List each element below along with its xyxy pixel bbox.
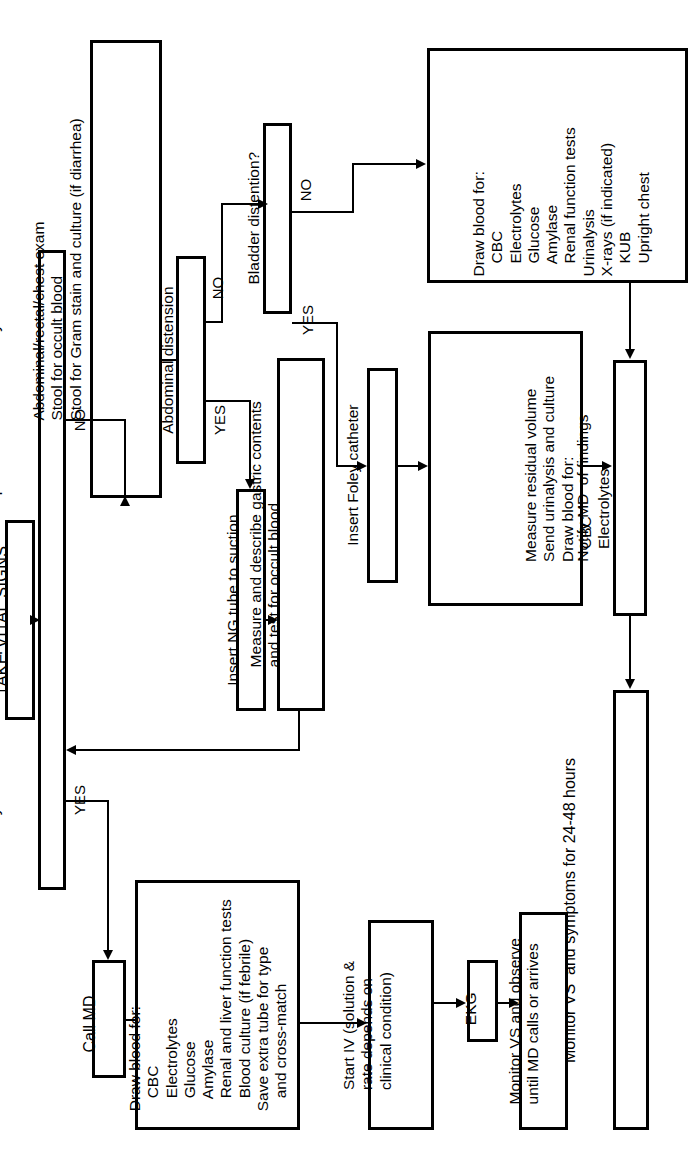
edge-label-no-bladder: NO bbox=[295, 173, 315, 207]
edge-label-yes-abdominal: YES bbox=[209, 397, 229, 443]
connector-yes-branch-vertical bbox=[107, 800, 109, 955]
node-bladder-distention: Bladder distention? bbox=[263, 123, 292, 314]
connector-abd-no-vertical bbox=[221, 203, 223, 323]
arrowhead-ekg-to-monitor bbox=[509, 998, 519, 1008]
node-measure-gastric: Measure and describe gastric contents an… bbox=[277, 358, 325, 711]
node-draw-blood-urgent: Draw blood for: CBC Electrolytes Glucose… bbox=[135, 880, 300, 1130]
connector-panel-to-notify-vertical bbox=[629, 283, 631, 351]
arrowhead-gastric-loop bbox=[66, 745, 76, 755]
node-monitor-until-md: Monitor VS and observe until MD calls or… bbox=[519, 912, 568, 1130]
node-exam-stool-label: Abdominal/rectal/chest exam Stool for oc… bbox=[30, 118, 85, 420]
node-monitor-24-48: Monitor VS and symptoms for 24-48 hours bbox=[613, 690, 649, 1130]
arrowhead-abd-no bbox=[258, 199, 268, 209]
node-start-iv: Start IV (solution & rate depends on cli… bbox=[368, 920, 434, 1130]
connector-gastric-loop-horizontal bbox=[72, 749, 300, 751]
node-draw-blood-full: Draw blood for: CBC Electrolytes Glucose… bbox=[427, 48, 688, 283]
node-ekg: EKG bbox=[467, 960, 498, 1042]
flowchart-canvas: TAKE VITAL SIGNS Systolic BP<100 and/or … bbox=[0, 0, 694, 1162]
arrowhead-abd-yes bbox=[245, 479, 255, 489]
edge-label-yes-bladder: YES bbox=[297, 297, 317, 343]
node-notify-md: Notify MD of findings bbox=[613, 360, 647, 616]
connector-bladder-no-to-panel bbox=[352, 163, 422, 165]
arrowhead-foley-to-residual bbox=[418, 461, 428, 471]
arrowhead-no-branch bbox=[120, 496, 130, 506]
arrowhead-bladder-yes bbox=[357, 461, 367, 471]
node-abdominal-distension: Abdominal distension bbox=[176, 256, 206, 464]
connector-abd-no-top bbox=[206, 321, 223, 323]
connector-gastric-loop-vertical bbox=[298, 711, 300, 751]
connector-callmd-to-drawblood bbox=[126, 1019, 137, 1021]
arrowhead-bladder-no bbox=[416, 159, 426, 169]
arrowhead-panel-to-notify bbox=[625, 349, 635, 359]
arrowhead-yes-branch bbox=[103, 950, 113, 960]
connector-yes-branch-horizontal bbox=[66, 800, 109, 802]
connector-notify-to-monitor-vertical bbox=[629, 616, 631, 681]
node-insert-foley-label: Insert Foley catheter bbox=[344, 405, 362, 546]
node-start-iv-label: Start IV (solution & rate depends on cli… bbox=[340, 960, 395, 1089]
node-insert-ng-tube-label: Insert NG tube to suction bbox=[224, 514, 242, 685]
arrowhead-ng-to-gastric bbox=[268, 615, 278, 625]
arrowhead-residual-to-notify bbox=[602, 461, 612, 471]
node-draw-blood-urgent-label: Draw blood for: CBC Electrolytes Glucose… bbox=[126, 899, 291, 1111]
connector-drawblood-to-iv bbox=[300, 1022, 360, 1024]
arrowhead-drawblood-to-iv bbox=[357, 1018, 367, 1028]
connector-exam-to-abdominal bbox=[162, 359, 178, 361]
node-draw-blood-full-label: Draw blood for: CBC Electrolytes Glucose… bbox=[470, 55, 653, 277]
connector-no-branch-vertical bbox=[124, 419, 126, 501]
node-measure-gastric-label: Measure and describe gastric contents an… bbox=[247, 401, 284, 667]
connector-bladder-yes-vertical bbox=[336, 322, 338, 467]
node-vitals-decision-label: Systolic BP<100 and/or pulse >100 and/or… bbox=[0, 314, 4, 825]
node-insert-foley: Insert Foley catheter bbox=[367, 368, 398, 583]
connector-bladder-yes-from-box bbox=[292, 322, 338, 324]
node-notify-md-label: Notify MD of findings bbox=[574, 414, 592, 561]
connector-bladder-no-vertical bbox=[352, 163, 354, 213]
node-call-md: Call MD bbox=[92, 960, 126, 1078]
node-monitor-until-md-label: Monitor VS and observe until MD calls or… bbox=[506, 938, 543, 1104]
edge-label-no-abdominal: NO bbox=[207, 271, 227, 305]
node-measure-residual: Measure residual volume Send urinalysis … bbox=[428, 331, 583, 606]
arrowhead-vitals-to-decision bbox=[30, 615, 40, 625]
connector-no-branch-horizontal bbox=[66, 419, 126, 421]
arrowhead-iv-to-ekg bbox=[456, 998, 466, 1008]
connector-abd-yes-vertical bbox=[249, 400, 251, 482]
node-call-md-label: Call MD bbox=[81, 986, 100, 1052]
arrowhead-notify-to-monitor bbox=[625, 679, 635, 689]
connector-abd-yes-horizontal bbox=[206, 400, 251, 402]
node-exam-stool: Abdominal/rectal/chest exam Stool for oc… bbox=[90, 40, 162, 498]
node-bladder-distention-label: Bladder distention? bbox=[245, 152, 263, 285]
connector-bladder-no-from-box bbox=[292, 211, 354, 213]
